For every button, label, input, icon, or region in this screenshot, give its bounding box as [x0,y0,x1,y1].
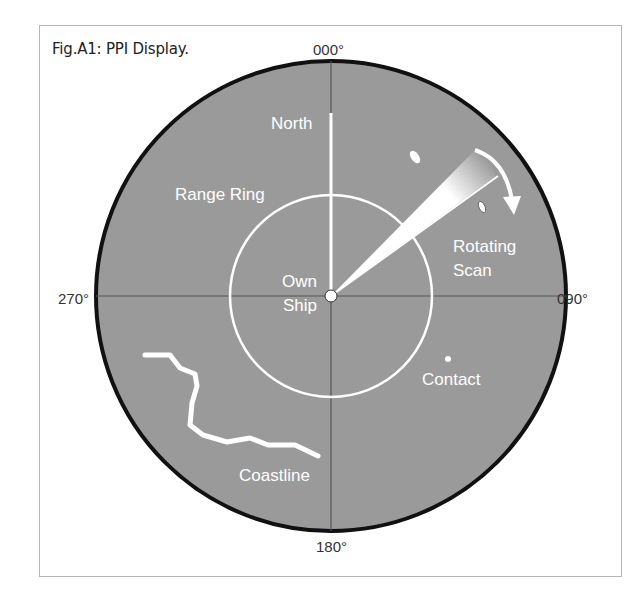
label-rotating: Rotating [453,237,516,256]
contact-dot [445,356,451,362]
bearing-090: 090° [557,290,588,307]
label-north: North [271,114,313,133]
label-own-ship-2: Ship [283,296,317,315]
own-ship-marker [325,290,337,302]
label-own-ship-1: Own [282,272,317,291]
label-coastline: Coastline [239,466,310,485]
label-contact: Contact [422,370,481,389]
label-range-ring: Range Ring [175,185,265,204]
bearing-270: 270° [58,290,89,307]
bearing-180: 180° [316,538,347,555]
ppi-display: North Range Ring Own Ship Rotating Scan … [0,0,643,602]
label-scan: Scan [453,261,492,280]
bearing-000: 000° [313,41,344,58]
